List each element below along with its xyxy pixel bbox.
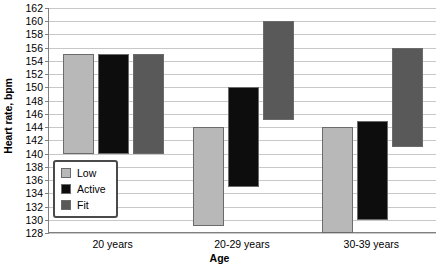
y-axis-tick-mark [45, 114, 49, 115]
x-axis-title: Age [0, 252, 439, 264]
y-axis-tick-label: 146 [0, 108, 43, 120]
y-axis-tick-mark [45, 180, 49, 181]
gridline [49, 8, 436, 9]
y-axis-tick-mark [45, 207, 49, 208]
y-axis-tick-label: 154 [0, 55, 43, 67]
legend: LowActiveFit [53, 160, 118, 218]
legend-label-active: Active [77, 183, 106, 195]
gridline [49, 233, 436, 234]
y-axis-tick-label: 160 [0, 15, 43, 27]
y-axis-tick-label: 134 [0, 187, 43, 199]
y-axis-tick-mark [45, 154, 49, 155]
y-axis-tick-label: 152 [0, 68, 43, 80]
bar-chart: Heart rate, bpm 128130132134136138140142… [0, 0, 439, 267]
bar-fit-2 [263, 21, 294, 120]
legend-label-low: Low [77, 167, 96, 179]
y-axis-tick-label: 156 [0, 42, 43, 54]
y-axis-tick-mark [45, 87, 49, 88]
bar-active-2 [228, 87, 259, 186]
y-axis-tick-label: 144 [0, 121, 43, 133]
legend-swatch-low [61, 168, 71, 178]
y-axis-tick-mark [45, 167, 49, 168]
bar-active-3 [357, 121, 388, 220]
legend-item-low: Low [61, 166, 106, 180]
legend-item-fit: Fit [61, 198, 106, 212]
y-axis-tick-label: 132 [0, 201, 43, 213]
gridline [49, 34, 436, 35]
y-axis-tick-label: 136 [0, 174, 43, 186]
y-axis-tick-label: 162 [0, 2, 43, 14]
gridline [49, 48, 436, 49]
y-axis-tick-mark [45, 193, 49, 194]
y-axis-tick-label: 140 [0, 148, 43, 160]
legend-item-active: Active [61, 182, 106, 196]
y-axis-tick-mark [45, 48, 49, 49]
bar-fit-1 [133, 54, 164, 153]
y-axis-tick-mark [45, 101, 49, 102]
legend-swatch-fit [61, 200, 71, 210]
y-axis-tick-mark [45, 34, 49, 35]
bar-active-1 [98, 54, 129, 153]
y-axis-tick-mark [45, 61, 49, 62]
bar-low-3 [322, 127, 353, 233]
y-axis-tick-mark [45, 127, 49, 128]
y-axis-tick-mark [45, 74, 49, 75]
y-axis-tick-label: 142 [0, 134, 43, 146]
x-axis-tick-label: 20-29 years [214, 238, 269, 250]
y-axis-tick-label: 148 [0, 95, 43, 107]
y-axis-tick-label: 150 [0, 81, 43, 93]
gridline [49, 220, 436, 221]
gridline [49, 21, 436, 22]
y-axis-tick-label: 158 [0, 28, 43, 40]
y-axis-tick-mark [45, 21, 49, 22]
x-axis-tick-label: 30-39 years [344, 238, 399, 250]
y-axis-tick-label: 128 [0, 227, 43, 239]
y-axis-tick-label: 130 [0, 214, 43, 226]
y-axis-tick-mark [45, 220, 49, 221]
y-axis-tick-label: 138 [0, 161, 43, 173]
y-axis-tick-mark [45, 233, 49, 234]
y-axis-tick-mark [45, 8, 49, 9]
bar-low-2 [193, 127, 224, 226]
x-axis-tick-label: 20 years [93, 238, 133, 250]
y-axis-tick-mark [45, 140, 49, 141]
legend-label-fit: Fit [77, 199, 89, 211]
bar-low-1 [63, 54, 94, 153]
legend-swatch-active [61, 184, 71, 194]
bar-fit-3 [392, 48, 423, 147]
